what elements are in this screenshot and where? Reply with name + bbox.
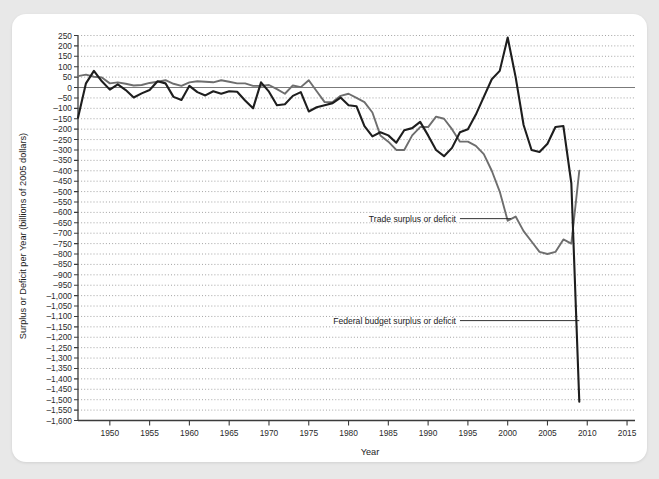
y-tick-label: –1,350 [46,363,72,373]
y-tick-label: –700 [53,228,72,238]
figure-card: 250200150100500–50–100–150–200–250–300–3… [12,14,647,462]
x-tick-label: 1955 [140,428,159,438]
y-tick-label: –1,250 [46,343,72,353]
y-tick-label: –1,550 [46,405,72,415]
series-annotation-label: Trade surplus or deficit [369,214,457,224]
y-tick-label: 100 [58,62,72,72]
x-tick-label: 1960 [180,428,199,438]
y-tick-label: –1,600 [46,416,72,426]
x-tick-label: 2015 [618,428,637,438]
y-tick-label: 250 [58,31,72,41]
x-tick-label: 2005 [538,428,557,438]
x-tick-label: 1995 [459,428,478,438]
x-tick-label: 1950 [101,428,120,438]
x-tick-label: 1970 [260,428,279,438]
y-tick-label: –1,150 [46,322,72,332]
y-tick-label: –400 [53,166,72,176]
y-tick-label: –450 [53,176,72,186]
y-tick-label: –100 [53,103,72,113]
y-tick-label: –150 [53,114,72,124]
x-tick-label: 1975 [299,428,318,438]
x-axis [78,421,635,426]
y-tick-label: 150 [58,51,72,61]
x-axis-title: Year [361,447,380,457]
y-tick-label: –550 [53,197,72,207]
y-tick-label: –1,400 [46,374,72,384]
x-tick-label: 1990 [419,428,438,438]
y-axis-title: Surplus or Deficit per Year (billions of… [18,133,28,339]
grid-lines [78,36,635,421]
annotations: Trade surplus or deficitFederal budget s… [333,214,579,326]
y-tick-label: 50 [63,72,73,82]
y-tick-label: –950 [53,280,72,290]
y-tick-label: –850 [53,259,72,269]
y-tick-label: –800 [53,249,72,259]
y-tick-label: 0 [67,83,72,93]
data-series [78,38,579,402]
y-tick-label: –250 [53,135,72,145]
y-tick-label: –1,300 [46,353,72,363]
chart-plot: 250200150100500–50–100–150–200–250–300–3… [12,14,647,462]
y-tick-label: –650 [53,218,72,228]
y-tick-label: –1,450 [46,384,72,394]
x-tick-labels: 1950195519601965197019751980198519901995… [101,428,637,438]
y-tick-label: –750 [53,239,72,249]
y-tick-label: –50 [58,93,72,103]
x-tick-label: 2000 [498,428,517,438]
series-line [78,75,579,254]
x-tick-label: 1980 [339,428,358,438]
y-axis [74,36,78,421]
y-tick-label: 200 [58,41,72,51]
y-tick-label: –350 [53,155,72,165]
y-tick-label: –600 [53,207,72,217]
y-tick-label: –1,050 [46,301,72,311]
y-tick-label: –900 [53,270,72,280]
series-annotation-label: Federal budget surplus or deficit [333,316,456,326]
y-tick-label: –1,000 [46,291,72,301]
y-tick-labels: 250200150100500–50–100–150–200–250–300–3… [46,31,72,426]
y-tick-label: –1,500 [46,395,72,405]
x-tick-label: 1965 [220,428,239,438]
y-tick-label: –1,200 [46,332,72,342]
x-tick-label: 1985 [379,428,398,438]
x-tick-label: 2010 [578,428,597,438]
y-tick-label: –1,100 [46,311,72,321]
series-line [78,38,579,402]
y-tick-label: –500 [53,187,72,197]
y-tick-label: –300 [53,145,72,155]
y-tick-label: –200 [53,124,72,134]
